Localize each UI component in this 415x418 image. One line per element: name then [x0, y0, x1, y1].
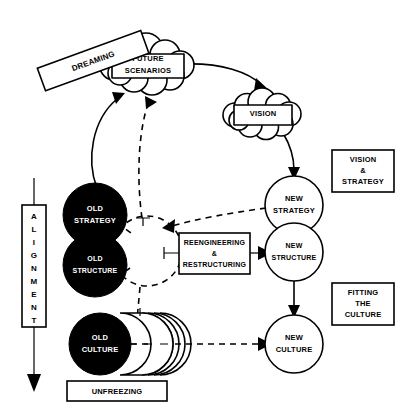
- new-culture-line2: CULTURE: [276, 345, 313, 354]
- process-line1: REENGINEERING: [184, 239, 246, 246]
- vision-strategy-line1: VISION: [350, 155, 377, 164]
- box-vision-and-strategy[interactable]: VISION & STRATEGY: [332, 150, 394, 192]
- old-structure-line1: OLD: [87, 255, 102, 262]
- new-strategy-line2: STRATEGY: [273, 206, 315, 215]
- future-scenarios-line2: SCENARIOS: [125, 66, 171, 75]
- fitting-culture-line1: FITTING: [348, 288, 379, 297]
- edge-future-scenarios-to-vision: [185, 64, 270, 91]
- box-fitting-the-culture[interactable]: FITTING THE CULTURE: [332, 283, 394, 325]
- fitting-culture-line3: CULTURE: [345, 310, 382, 319]
- vision-strategy-line3: STRATEGY: [342, 177, 384, 186]
- alignment-arrowhead: [27, 374, 41, 392]
- alignment-letter-6: E: [31, 290, 37, 299]
- new-structure-line2: STRUCTURE: [272, 254, 317, 261]
- change-model-diagram: FUTURE SCENARIOS VISION OLD STRATEGY OLD…: [0, 0, 415, 418]
- old-strategy-line2: STRATEGY: [74, 216, 116, 225]
- alignment-letter-5: M: [31, 277, 38, 286]
- vision-strategy-line2: &: [360, 166, 366, 175]
- new-strategy-line1: NEW: [285, 194, 304, 203]
- vision-line1: VISION: [250, 109, 277, 118]
- alignment-letter-2: I: [33, 238, 35, 247]
- hub-right-tick: [164, 247, 179, 259]
- box-reengineering-restructuring[interactable]: REENGINEERING & RESTRUCTURING: [179, 233, 250, 274]
- alignment-letter-4: N: [31, 264, 37, 273]
- hub-top-tick: [136, 218, 150, 226]
- fitting-culture-line2: THE: [355, 299, 371, 308]
- diagram-canvas: FUTURE SCENARIOS VISION OLD STRATEGY OLD…: [0, 0, 415, 418]
- alignment-letter-0: A: [31, 212, 37, 221]
- node-old-structure[interactable]: OLD STRUCTURE: [63, 233, 127, 297]
- edge-vision-to-new-strategy: [283, 133, 300, 180]
- node-new-structure[interactable]: NEW STRUCTURE: [265, 223, 323, 281]
- edge-new-strategy-to-hub: [162, 208, 266, 233]
- alignment-letter-8: T: [31, 316, 36, 325]
- new-structure-line1: NEW: [286, 242, 303, 249]
- unfreezing-text: UNFREEZING: [92, 387, 143, 396]
- old-culture-line1: OLD: [92, 333, 109, 342]
- old-culture-line2: CULTURE: [82, 345, 119, 354]
- node-new-culture[interactable]: NEW CULTURE: [265, 315, 323, 373]
- alignment-letter-3: G: [31, 251, 37, 260]
- alignment-letter-7: N: [31, 303, 37, 312]
- node-vision[interactable]: VISION: [223, 88, 301, 140]
- alignment-letter-1: L: [31, 225, 36, 234]
- label-unfreezing[interactable]: UNFREEZING: [67, 381, 167, 401]
- edge-new-structure-to-new-culture: [288, 280, 300, 318]
- edge-old-culture-to-new-culture: [120, 337, 272, 351]
- old-strategy-line1: OLD: [87, 204, 104, 213]
- new-structure-circle: [265, 223, 323, 281]
- node-old-culture[interactable]: OLD CULTURE: [69, 308, 191, 375]
- process-line3: RESTRUCTURING: [183, 261, 247, 268]
- new-culture-line1: NEW: [285, 333, 304, 342]
- process-line2: &: [212, 250, 217, 257]
- edge-old-strategy-to-future-scenarios: [92, 92, 125, 188]
- old-structure-circle: [63, 233, 127, 297]
- old-structure-line2: STRUCTURE: [73, 267, 118, 274]
- axis-alignment[interactable]: A L I G N M E N T: [22, 178, 46, 392]
- edge-hub-to-future-scenarios: [139, 96, 157, 218]
